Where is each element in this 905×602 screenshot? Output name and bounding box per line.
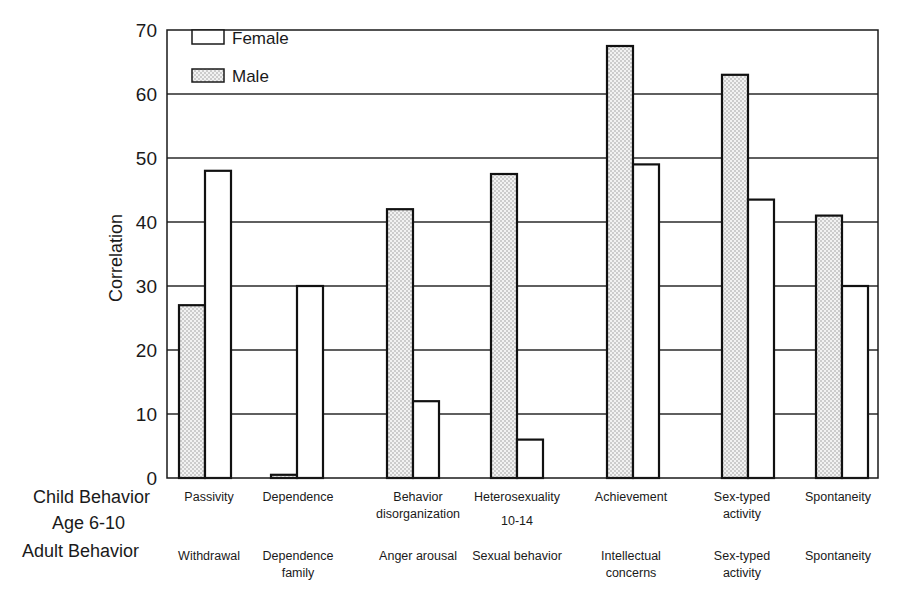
y-tick-label: 50 [136,148,157,169]
y-tick-label: 20 [136,340,157,361]
row-label-age: Age 6-10 [52,513,125,534]
category-label-adult: Anger arousal [379,548,457,565]
category-label-child: Dependence [263,489,334,506]
category-label-child: Behavior disorganization [376,489,460,523]
bar-male [491,174,517,478]
category-label-child: Achievement [595,489,667,506]
bar-female [517,440,543,478]
bars [179,46,868,478]
bar-female [413,401,439,478]
category-label-child: Sex-typed activity [714,489,770,523]
bar-female [633,164,659,478]
category-label-child: Passivity [184,489,233,506]
bar-female [748,200,774,478]
category-label-adult: Intellectual concerns [601,548,661,582]
y-tick-label: 30 [136,276,157,297]
y-axis-label: Correlation [106,214,126,302]
legend: Female Male [192,29,289,86]
y-axis-ticks: 010203040506070 [136,20,157,489]
category-label-adult: Withdrawal [178,548,240,565]
legend-label-male: Male [232,67,269,86]
y-tick-label: 10 [136,404,157,425]
bar-male [387,209,413,478]
bar-male [179,305,205,478]
bar-male [607,46,633,478]
bar-male [722,75,748,478]
category-label-adult: Sexual behavior [472,548,562,565]
bar-female [842,286,868,478]
category-label-adult: Spontaneity [805,548,871,565]
y-tick-label: 70 [136,20,157,41]
row-label-child-behavior: Child Behavior [33,487,150,508]
category-label-age: 10-14 [501,513,533,530]
bar-female [297,286,323,478]
legend-swatch-male [192,69,224,82]
category-label-child: Heterosexuality [474,489,560,506]
row-label-adult-behavior: Adult Behavior [22,541,139,562]
category-label-child: Spontaneity [805,489,871,506]
legend-label-female: Female [232,29,289,48]
legend-swatch-female [192,30,224,44]
category-label-adult: Dependence family [263,548,334,582]
bar-female [205,171,231,478]
y-tick-label: 40 [136,212,157,233]
y-tick-label: 0 [146,468,157,489]
bar-male [816,216,842,478]
y-tick-label: 60 [136,84,157,105]
category-label-adult: Sex-typed activity [714,548,770,582]
